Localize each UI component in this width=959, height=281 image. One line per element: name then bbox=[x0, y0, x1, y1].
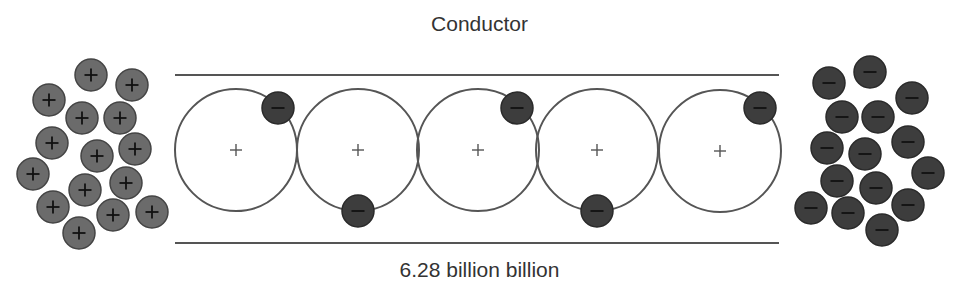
electron bbox=[860, 172, 892, 204]
electron bbox=[892, 189, 924, 221]
electron bbox=[811, 132, 843, 164]
nucleus-plus-icon bbox=[591, 144, 603, 156]
proton bbox=[75, 59, 107, 91]
atom bbox=[536, 89, 658, 227]
proton bbox=[63, 217, 95, 249]
proton bbox=[36, 127, 68, 159]
nucleus-plus-icon bbox=[714, 145, 726, 157]
proton bbox=[119, 133, 151, 165]
electron bbox=[813, 67, 845, 99]
nucleus-plus-icon bbox=[352, 144, 364, 156]
proton bbox=[97, 199, 129, 231]
electron bbox=[744, 92, 776, 124]
atom bbox=[175, 89, 297, 211]
proton bbox=[81, 140, 113, 172]
electron bbox=[342, 195, 374, 227]
electron bbox=[849, 138, 881, 170]
proton bbox=[17, 158, 49, 190]
proton bbox=[110, 167, 142, 199]
atom-row bbox=[175, 89, 781, 227]
charge-quantity-label: 6.28 billion billion bbox=[0, 258, 959, 281]
atom bbox=[659, 90, 781, 212]
nucleus-plus-icon bbox=[472, 144, 484, 156]
electron bbox=[862, 101, 894, 133]
positive-charge-cluster bbox=[17, 59, 168, 249]
electron bbox=[912, 157, 944, 189]
proton bbox=[69, 174, 101, 206]
atom bbox=[417, 89, 539, 211]
electron bbox=[892, 126, 924, 158]
atom bbox=[297, 89, 419, 227]
electron bbox=[795, 192, 827, 224]
nucleus-plus-icon bbox=[230, 144, 242, 156]
electron bbox=[854, 56, 886, 88]
electron bbox=[821, 165, 853, 197]
electron bbox=[832, 197, 864, 229]
electron bbox=[262, 92, 294, 124]
proton bbox=[104, 102, 136, 134]
electron bbox=[896, 82, 928, 114]
proton bbox=[33, 84, 65, 116]
proton bbox=[136, 196, 168, 228]
electron bbox=[826, 101, 858, 133]
electron bbox=[866, 214, 898, 246]
negative-charge-cluster bbox=[795, 56, 944, 246]
electron bbox=[581, 195, 613, 227]
proton bbox=[37, 191, 69, 223]
proton bbox=[66, 102, 98, 134]
proton bbox=[116, 69, 148, 101]
electron bbox=[501, 92, 533, 124]
